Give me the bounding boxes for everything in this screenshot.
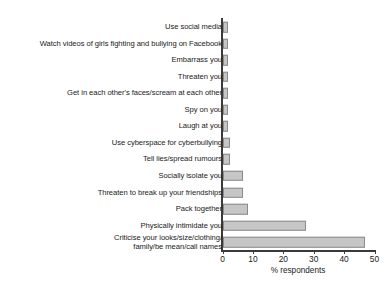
- x-tick-label: 50: [370, 254, 379, 264]
- bar-category-label: Laugh at you: [4, 122, 222, 131]
- bar: [223, 138, 230, 149]
- bar: [223, 237, 366, 248]
- x-tick: [344, 250, 345, 254]
- bar-row: Threaten to break up your friendships: [0, 185, 387, 201]
- x-tick: [375, 250, 376, 254]
- bar-row: Physically intimidate you: [0, 218, 387, 234]
- bar-category-label: Spy on you: [4, 105, 222, 114]
- bar-row: Pack together: [0, 201, 387, 217]
- bar: [223, 204, 249, 215]
- x-tick-label: 0: [220, 254, 225, 264]
- bar-category-label: Get in each other's faces/scream at each…: [4, 89, 222, 98]
- bar: [223, 220, 307, 231]
- bar: [223, 121, 229, 132]
- bar-category-label: Pack together: [4, 204, 222, 213]
- bar-row: Use cyberspace for cyberbullying: [0, 135, 387, 151]
- bar-category-label: Threaten you: [4, 72, 222, 81]
- bar-row: Threaten you: [0, 69, 387, 85]
- x-axis-title: % respondents: [271, 266, 326, 275]
- bar-chart: Use social mediaWatch videos of girls fi…: [0, 0, 387, 297]
- bar-row: Socially isolate you: [0, 168, 387, 184]
- bar-category-label: Tell lies/spread rumours: [4, 155, 222, 164]
- bar: [223, 187, 243, 198]
- bar: [223, 105, 229, 116]
- bar-category-label: Use social media: [4, 22, 222, 31]
- bar-row: Get in each other's faces/scream at each…: [0, 85, 387, 101]
- bar-row: Criticise your looks/size/clothing/ fami…: [0, 234, 387, 250]
- x-tick-label: 10: [248, 254, 257, 264]
- bar: [223, 55, 229, 66]
- bar-category-label: Physically intimidate you: [4, 221, 222, 230]
- bar-category-label: Threaten to break up your friendships: [4, 188, 222, 197]
- bar-category-label: Criticise your looks/size/clothing/ fami…: [4, 233, 222, 252]
- bar: [223, 38, 229, 49]
- bar: [223, 154, 231, 165]
- bar-row: Use social media: [0, 19, 387, 35]
- x-tick: [283, 250, 284, 254]
- bar: [223, 88, 229, 99]
- bar-category-label: Socially isolate you: [4, 171, 222, 180]
- plot-area: Use social mediaWatch videos of girls fi…: [0, 0, 387, 297]
- bar: [223, 171, 243, 182]
- x-tick-label: 20: [279, 254, 288, 264]
- bar: [223, 71, 229, 82]
- bar: [223, 22, 229, 33]
- x-tick-label: 40: [339, 254, 348, 264]
- x-tick: [314, 250, 315, 254]
- bar-category-label: Watch videos of girls fighting and bully…: [4, 39, 222, 48]
- bar-category-label: Embarrass you: [4, 55, 222, 64]
- x-tick-label: 30: [309, 254, 318, 264]
- bar-row: Laugh at you: [0, 118, 387, 134]
- x-tick: [223, 250, 224, 254]
- x-tick: [253, 250, 254, 254]
- bar-row: Watch videos of girls fighting and bully…: [0, 36, 387, 52]
- bar-row: Embarrass you: [0, 52, 387, 68]
- bar-category-label: Use cyberspace for cyberbullying: [4, 138, 222, 147]
- bar-row: Spy on you: [0, 102, 387, 118]
- bar-row: Tell lies/spread rumours: [0, 151, 387, 167]
